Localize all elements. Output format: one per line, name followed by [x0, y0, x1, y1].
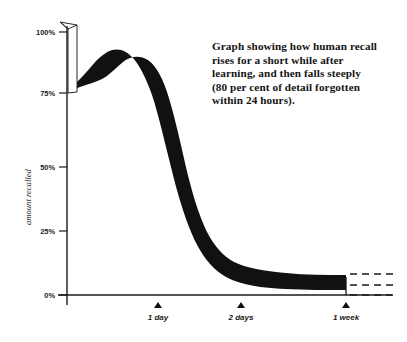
y-axis-title: amount recalled	[23, 169, 33, 225]
x-tick-label-1-day: 1 day	[148, 313, 169, 322]
y-tick-label-75: 75%	[40, 89, 55, 98]
x-tick-label-2-days: 2 days	[228, 313, 254, 322]
caption-line-3: learning, and then falls steeply	[212, 67, 397, 81]
caption-line-5: within 24 hours).	[212, 94, 397, 108]
y-tick-label-50: 50%	[40, 163, 55, 172]
y-tick-label-0: 0%	[44, 291, 55, 300]
caption-line-1: Graph showing how human recall	[212, 40, 397, 54]
caption-line-4: (80 per cent of detail forgotten	[212, 81, 397, 95]
y-tick-label-100: 100%	[36, 28, 55, 37]
y-tick-label-25: 25%	[40, 227, 55, 236]
caption-line-2: rises for a short while after	[212, 54, 397, 68]
x-tick-label-1-week: 1 week	[333, 313, 360, 322]
figure-caption: Graph showing how human recall rises for…	[212, 40, 397, 108]
